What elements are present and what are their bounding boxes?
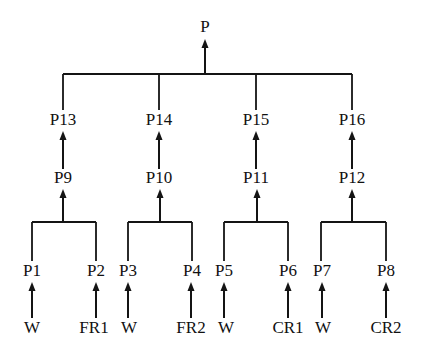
node-label-P15: P15 bbox=[243, 110, 269, 129]
arrow-FR1-to-P2-head bbox=[93, 282, 100, 291]
node-label-CR2: CR2 bbox=[370, 318, 401, 337]
node-labels-group: PP13P14P15P16P9P10P11P12P1P2P3P4P5P6P7P8… bbox=[23, 17, 402, 337]
arrow-CR1-to-P6 bbox=[285, 282, 292, 318]
arrow-group bbox=[29, 39, 390, 318]
arrow-P12-to-P16 bbox=[349, 131, 356, 169]
bus-top-level1 bbox=[63, 74, 352, 110]
node-label-P1: P1 bbox=[23, 261, 41, 280]
arrow-W2-to-P3 bbox=[125, 282, 132, 318]
node-label-P10: P10 bbox=[146, 168, 172, 187]
node-label-P14: P14 bbox=[146, 110, 173, 129]
arrow-bus3-to-P11-head bbox=[254, 189, 261, 198]
node-label-P2: P2 bbox=[87, 261, 105, 280]
arrow-P12-to-P16-head bbox=[349, 131, 356, 140]
arrow-W1-to-P1-head bbox=[29, 282, 36, 291]
bus-P3-P4 bbox=[128, 222, 192, 261]
bus-P7-P8 bbox=[321, 222, 386, 261]
node-label-P13: P13 bbox=[50, 110, 76, 129]
node-label-FR1: FR1 bbox=[79, 318, 108, 337]
bus-lines-group bbox=[32, 74, 386, 261]
arrow-bus4-to-P12 bbox=[349, 189, 356, 222]
node-label-P6: P6 bbox=[279, 261, 297, 280]
arrow-P10-to-P14 bbox=[156, 131, 163, 169]
arrow-FR2-to-P4-head bbox=[188, 282, 195, 291]
arrow-W3-to-P5 bbox=[221, 282, 228, 318]
arrow-bus2-to-P10 bbox=[157, 189, 164, 222]
arrow-P11-to-P15-head bbox=[253, 131, 260, 140]
arrow-bus-to-P bbox=[202, 39, 209, 74]
node-label-P4: P4 bbox=[183, 261, 201, 280]
arrow-bus1-to-P9-head bbox=[60, 189, 67, 198]
node-label-P3: P3 bbox=[119, 261, 137, 280]
arrow-FR2-to-P4 bbox=[188, 282, 195, 318]
node-label-P12: P12 bbox=[339, 168, 365, 187]
node-label-P8: P8 bbox=[377, 261, 395, 280]
arrow-bus3-to-P11 bbox=[254, 189, 261, 222]
node-label-P: P bbox=[200, 17, 209, 36]
arrow-W4-to-P7 bbox=[319, 282, 326, 318]
bus-P1-P2 bbox=[32, 222, 96, 261]
node-label-W1: W bbox=[24, 318, 41, 337]
arrow-bus4-to-P12-head bbox=[349, 189, 356, 198]
arrow-W1-to-P1 bbox=[29, 282, 36, 318]
arrow-P9-to-P13 bbox=[60, 131, 67, 169]
arrow-P11-to-P15 bbox=[253, 131, 260, 169]
arrow-W3-to-P5-head bbox=[221, 282, 228, 291]
tree-diagram-canvas: PP13P14P15P16P9P10P11P12P1P2P3P4P5P6P7P8… bbox=[0, 0, 427, 357]
hierarchy-diagram: PP13P14P15P16P9P10P11P12P1P2P3P4P5P6P7P8… bbox=[0, 0, 427, 357]
node-label-P11: P11 bbox=[243, 168, 269, 187]
arrow-bus1-to-P9 bbox=[60, 189, 67, 222]
node-label-P16: P16 bbox=[339, 110, 365, 129]
arrow-CR2-to-P8-head bbox=[383, 282, 390, 291]
arrow-W2-to-P3-head bbox=[125, 282, 132, 291]
arrow-P9-to-P13-head bbox=[60, 131, 67, 140]
arrow-bus-to-P-head bbox=[202, 39, 209, 48]
node-label-P7: P7 bbox=[313, 261, 331, 280]
node-label-W3: W bbox=[218, 318, 235, 337]
node-label-CR1: CR1 bbox=[272, 318, 303, 337]
arrow-P10-to-P14-head bbox=[156, 131, 163, 140]
node-label-W4: W bbox=[315, 318, 332, 337]
node-label-P5: P5 bbox=[215, 261, 233, 280]
arrow-CR2-to-P8 bbox=[383, 282, 390, 318]
arrow-CR1-to-P6-head bbox=[285, 282, 292, 291]
arrow-W4-to-P7-head bbox=[319, 282, 326, 291]
node-label-FR2: FR2 bbox=[176, 318, 205, 337]
arrow-bus2-to-P10-head bbox=[157, 189, 164, 198]
bus-P5-P6 bbox=[224, 222, 288, 261]
node-label-W2: W bbox=[121, 318, 138, 337]
arrow-FR1-to-P2 bbox=[93, 282, 100, 318]
node-label-P9: P9 bbox=[54, 168, 72, 187]
